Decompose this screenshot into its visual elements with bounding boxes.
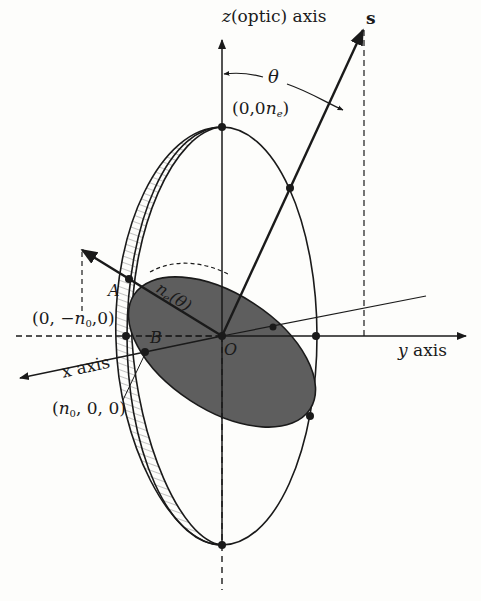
point-projection — [270, 324, 277, 331]
theta-arc — [224, 73, 263, 77]
point-top — [218, 123, 226, 131]
point-lower-right — [306, 412, 314, 420]
point-A — [125, 275, 133, 283]
x-point-label: (n0, 0, 0) — [52, 400, 126, 419]
point-bottom — [218, 541, 226, 549]
point-neg-y — [122, 332, 130, 340]
top-point-label: (0,0ne) — [232, 100, 289, 119]
neg-y-point-label: (0, −n0,0) — [32, 310, 115, 329]
point-A-label: A — [108, 283, 120, 299]
theta-label: θ — [268, 68, 279, 86]
s-vector — [222, 30, 363, 336]
point-origin — [218, 332, 226, 340]
index-ellipsoid-figure: z(optic) axis s θ (0,0ne) (0, −n0,0) (n0… — [0, 0, 481, 601]
point-B — [141, 348, 149, 356]
point-s-intersect — [286, 184, 294, 192]
y-axis-label: y axis — [398, 342, 447, 359]
point-y-intersect — [312, 332, 320, 340]
s-label: s — [366, 10, 376, 27]
point-B-label: B — [150, 330, 162, 346]
origin-label: O — [224, 342, 237, 358]
z-axis-label: z(optic) axis — [222, 8, 326, 25]
diagram-canvas — [0, 0, 481, 601]
